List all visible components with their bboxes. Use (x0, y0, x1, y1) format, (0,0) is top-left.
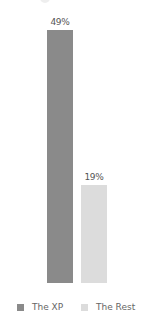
legend-swatch-icon (81, 304, 88, 311)
legend-item-the-rest: The Rest (81, 302, 135, 312)
bar-value-label: 49% (40, 17, 80, 27)
legend-item-the-xp: The XP (17, 302, 63, 312)
bar-value-label: 19% (74, 172, 114, 182)
legend-label: The XP (32, 302, 63, 312)
legend-label: The Rest (96, 302, 135, 312)
legend-swatch-icon (17, 304, 24, 311)
bar-the-xp (47, 30, 73, 283)
bar-the-rest (81, 185, 107, 283)
partial-element (40, 0, 50, 3)
